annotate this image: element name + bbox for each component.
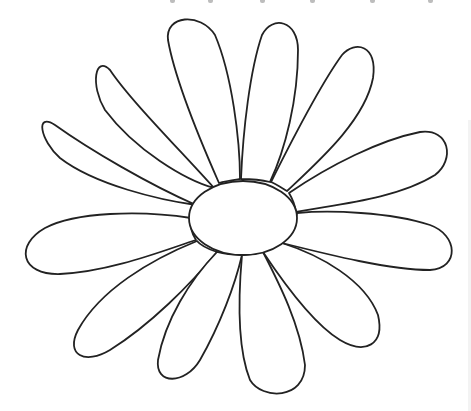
flower-center <box>189 181 297 255</box>
cropped-text-fragment <box>170 0 440 4</box>
daisy-drawing <box>0 0 471 411</box>
